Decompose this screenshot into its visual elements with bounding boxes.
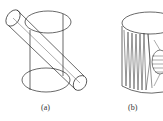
panel-a-wireframe	[3, 7, 90, 93]
cylinder-top-ellipse	[25, 11, 71, 33]
panel-b-label: (b)	[128, 104, 137, 112]
mesh-top-ellipse	[122, 12, 163, 34]
figure-canvas	[0, 0, 163, 121]
panel-b-mesh	[122, 12, 163, 93]
panel-a-label: (a)	[41, 104, 50, 112]
